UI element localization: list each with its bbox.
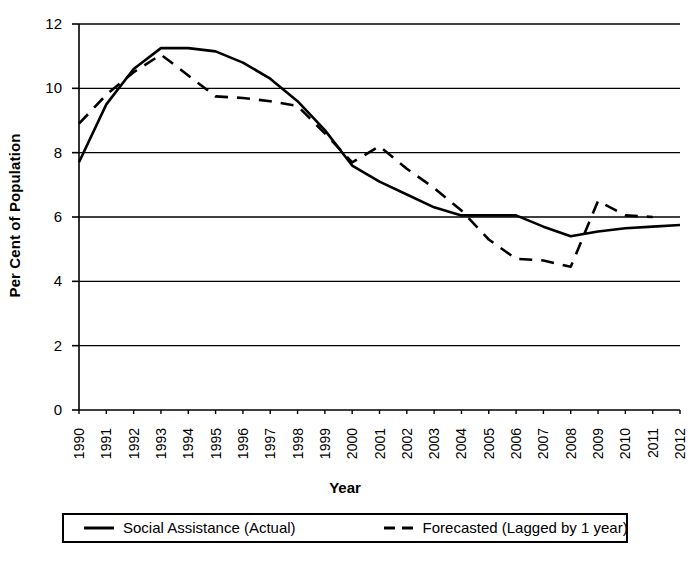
- x-tick-label: 2003: [426, 428, 442, 484]
- x-tick-label: 2012: [672, 428, 688, 484]
- x-tick-label: 2006: [508, 428, 524, 484]
- y-tick-label: 8: [28, 145, 62, 160]
- y-tick-label: 12: [28, 16, 62, 31]
- x-axis-title-text: Year: [329, 479, 361, 496]
- x-tick-label: 1998: [290, 428, 306, 484]
- x-tick-label: 1990: [71, 428, 87, 484]
- x-tick-label: 1999: [317, 428, 333, 484]
- x-tick-label: 1993: [153, 428, 169, 484]
- x-tick-label: 2007: [535, 428, 551, 484]
- y-tick-label: 10: [28, 80, 62, 95]
- x-axis-tick-labels: 1990199119921993199419951996199719981999…: [0, 416, 690, 486]
- y-axis-title-text: Per Cent of Population: [7, 133, 24, 297]
- legend-label-actual: Social Assistance (Actual): [123, 520, 296, 536]
- x-tick-label: 2001: [372, 428, 388, 484]
- y-tick-label: 6: [28, 209, 62, 224]
- x-tick-label: 1994: [180, 428, 196, 484]
- y-tick-label: 0: [28, 402, 62, 417]
- x-axis-title: Year: [0, 479, 690, 496]
- y-tick-label: 2: [28, 338, 62, 353]
- x-tick-label: 2002: [399, 428, 415, 484]
- x-tick-label: 2004: [453, 428, 469, 484]
- data-series-layer: [79, 48, 680, 267]
- legend-item-social-assistance-actual: Social Assistance (Actual): [82, 520, 296, 536]
- x-tick-label: 1996: [235, 428, 251, 484]
- x-tick-label: 2005: [481, 428, 497, 484]
- x-tick-label: 2000: [344, 428, 360, 484]
- x-tick-label: 1991: [98, 428, 114, 484]
- x-tick-label: 1997: [262, 428, 278, 484]
- legend-label-forecast: Forecasted (Lagged by 1 year): [423, 520, 628, 536]
- gridlines: [79, 24, 680, 410]
- y-tick-label: 4: [28, 273, 62, 288]
- x-tick-label: 2010: [617, 428, 633, 484]
- y-axis-ticks: [72, 24, 79, 410]
- chart-container: Per Cent of Population 024681012 1990199…: [0, 0, 690, 566]
- legend-item-forecasted-lagged: Forecasted (Lagged by 1 year): [382, 520, 628, 536]
- x-tick-label: 2008: [563, 428, 579, 484]
- chart-legend: Social Assistance (Actual) Forecasted (L…: [62, 513, 628, 543]
- x-tick-label: 1992: [126, 428, 142, 484]
- legend-swatch-dashed-line-icon: [382, 521, 416, 535]
- legend-swatch-solid-line-icon: [82, 521, 116, 535]
- x-tick-label: 2009: [590, 428, 606, 484]
- x-tick-label: 2011: [645, 428, 661, 484]
- plot-area: [70, 12, 685, 414]
- series-line-actual: [79, 48, 680, 236]
- y-axis-title: Per Cent of Population: [0, 0, 30, 430]
- x-tick-label: 1995: [208, 428, 224, 484]
